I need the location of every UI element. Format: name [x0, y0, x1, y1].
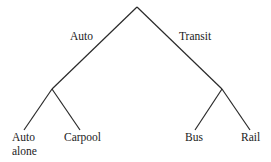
edge-transit-rail — [222, 89, 250, 130]
edge-root-transit — [137, 7, 222, 89]
edge-root-auto — [52, 7, 137, 89]
leaf-label-auto-alone-line2: alone — [12, 145, 37, 157]
branch-label-transit: Transit — [179, 30, 212, 42]
edge-auto-carpool — [52, 89, 80, 130]
leaf-label-auto-alone-line1: Auto — [12, 131, 35, 143]
leaf-label-carpool: Carpool — [64, 131, 101, 144]
edge-auto-auto-alone — [24, 89, 52, 130]
edge-transit-bus — [195, 89, 222, 130]
nested-choice-tree: Auto Transit Auto alone Carpool Bus Rail — [0, 0, 271, 162]
branch-label-auto: Auto — [70, 30, 93, 42]
leaf-label-bus: Bus — [185, 131, 203, 143]
leaf-label-rail: Rail — [241, 131, 260, 143]
